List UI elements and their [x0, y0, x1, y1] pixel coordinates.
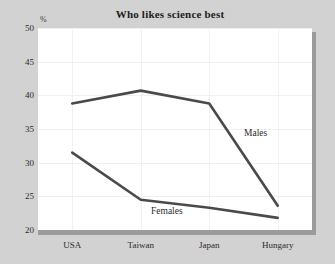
- x-axis-bar: [38, 230, 316, 235]
- y-axis-tick: 30: [0, 158, 34, 168]
- y-axis-tick: 40: [0, 90, 34, 100]
- series-label-males: Males: [244, 128, 267, 138]
- y-axis-tick: 25: [0, 191, 34, 201]
- y-axis-tick: 35: [0, 124, 34, 134]
- x-axis-tick: Japan: [199, 240, 220, 250]
- series-label-females: Females: [151, 206, 183, 216]
- x-axis-tick: Hungary: [262, 240, 294, 250]
- y-axis-tick-labels: 50454035302520: [0, 0, 34, 264]
- x-axis-tick: Taiwan: [128, 240, 154, 250]
- chart-container: Who likes science best % 50454035302520 …: [0, 0, 335, 264]
- plot-area: [38, 28, 312, 230]
- series-line-males: [72, 91, 278, 206]
- chart-title: Who likes science best: [60, 8, 280, 20]
- data-lines: [38, 28, 312, 230]
- y-axis-tick: 20: [0, 225, 34, 235]
- y-axis-tick: 45: [0, 57, 34, 67]
- y-axis-unit-label: %: [40, 15, 47, 24]
- x-axis-tick: USA: [63, 240, 81, 250]
- y-axis-tick: 50: [0, 23, 34, 33]
